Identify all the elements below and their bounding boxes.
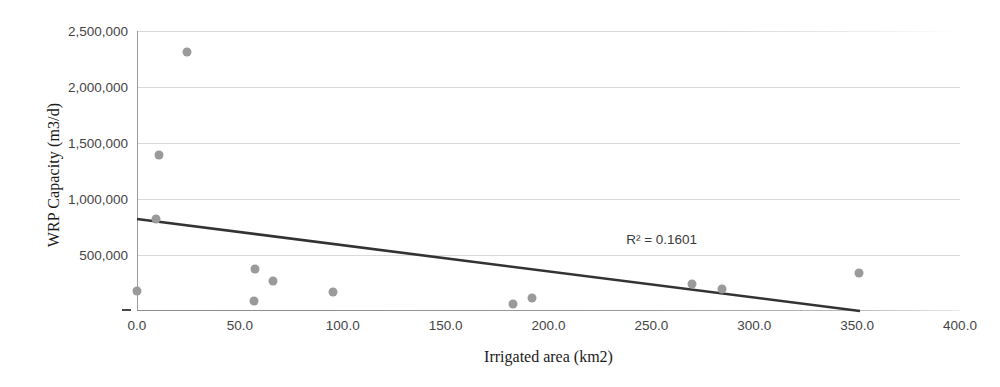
x-axis-tick-label: 0.0: [128, 318, 147, 333]
data-point: [269, 276, 278, 285]
data-point: [154, 150, 163, 159]
y-axis-tick-label: 1,500,000: [68, 136, 128, 151]
x-axis-tick-label: 150.0: [429, 318, 463, 333]
data-point: [528, 294, 537, 303]
data-point: [182, 48, 191, 57]
x-axis-title: Irrigated area (km2): [137, 348, 960, 366]
y-axis-zero-tick: [122, 309, 131, 311]
data-point: [133, 287, 142, 296]
y-axis-tick-label: 1,000,000: [68, 192, 128, 207]
r-squared-annotation: R² = 0.1601: [626, 232, 697, 247]
data-point: [854, 269, 863, 278]
data-point: [250, 297, 259, 306]
data-point: [151, 215, 160, 224]
data-point: [251, 265, 260, 274]
x-axis-tick-label: 100.0: [326, 318, 360, 333]
y-axis-tick-label: 500,000: [79, 248, 128, 263]
data-point: [687, 280, 696, 289]
plot-area: [137, 31, 960, 311]
x-axis-tick-label: 250.0: [634, 318, 668, 333]
trendline: [137, 31, 960, 311]
y-axis-tick-label: 2,500,000: [68, 24, 128, 39]
x-axis-tick-label: 50.0: [227, 318, 253, 333]
y-axis-tick-label: 2,000,000: [68, 80, 128, 95]
scatter-chart: WRP Capacity (m3/d) 500,0001,000,0001,50…: [0, 0, 1000, 387]
data-point: [717, 285, 726, 294]
x-axis-tick-label: 400.0: [943, 318, 977, 333]
data-point: [329, 287, 338, 296]
x-axis-tick-label: 200.0: [532, 318, 566, 333]
x-axis-tick-label: 300.0: [737, 318, 771, 333]
y-axis-tick-labels: 500,0001,000,0001,500,0002,000,0002,500,…: [0, 0, 128, 387]
data-point: [508, 300, 517, 309]
x-axis-tick-label: 350.0: [840, 318, 874, 333]
